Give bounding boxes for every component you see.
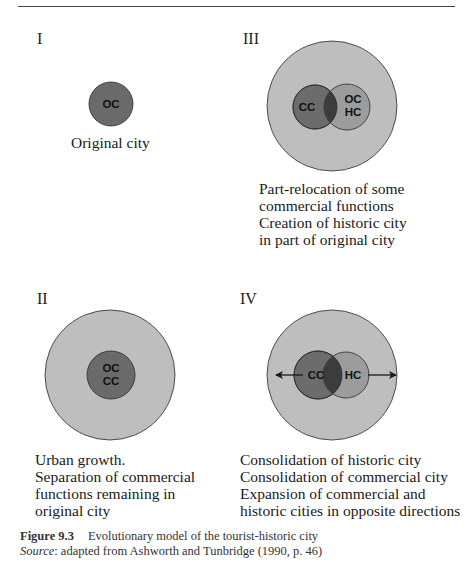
panel-I-diagram: OC: [89, 82, 133, 126]
panel-II-description: Urban growth. Separation of commercial f…: [35, 451, 195, 519]
caption-source-line: Source: adapted from Ashworth and Tunbri…: [20, 544, 322, 559]
panel-III-description: Part-relocation of some commercial funct…: [259, 180, 407, 248]
panel-II-diagram: OC CC: [45, 310, 175, 440]
hc-label: HC: [345, 369, 362, 381]
description-line: in part of original city: [259, 231, 407, 248]
figure-title: Evolutionary model of the tourist-histor…: [88, 529, 318, 543]
caption-title-line: Figure 9.3Evolutionary model of the tour…: [20, 529, 322, 544]
description-line: Original city: [71, 134, 150, 151]
description-line: Separation of commercial: [35, 468, 195, 485]
description-line: historic cities in opposite directions: [240, 502, 460, 519]
description-line: functions remaining in: [35, 485, 195, 502]
description-line: commercial functions: [259, 197, 407, 214]
figure-number: Figure 9.3: [20, 529, 74, 543]
oc-label: OC: [344, 93, 361, 105]
cc-label: CC: [103, 375, 120, 387]
description-line: Creation of historic city: [259, 214, 407, 231]
description-line: Consolidation of historic city: [240, 451, 460, 468]
figure-caption: Figure 9.3Evolutionary model of the tour…: [20, 529, 322, 559]
description-line: Expansion of commercial and: [240, 485, 460, 502]
panel-III-diagram: CC OC HC: [267, 41, 397, 171]
hc-label: HC: [345, 106, 362, 118]
description-line: Part-relocation of some: [259, 180, 407, 197]
panel-I-description: Original city: [71, 134, 150, 151]
panel-IV-description: Consolidation of historic city Consolida…: [240, 451, 460, 519]
description-line: Urban growth.: [35, 451, 195, 468]
description-line: Consolidation of commercial city: [240, 468, 460, 485]
source-text: : adapted from Ashworth and Tunbridge (1…: [54, 544, 322, 558]
description-line: original city: [35, 502, 195, 519]
panel-IV-diagram: CC HC: [267, 310, 397, 440]
cc-label: CC: [308, 369, 325, 381]
cc-label: CC: [299, 101, 316, 113]
oc-label: OC: [102, 98, 119, 110]
source-label: Source: [20, 544, 54, 558]
oc-label: OC: [102, 362, 119, 374]
